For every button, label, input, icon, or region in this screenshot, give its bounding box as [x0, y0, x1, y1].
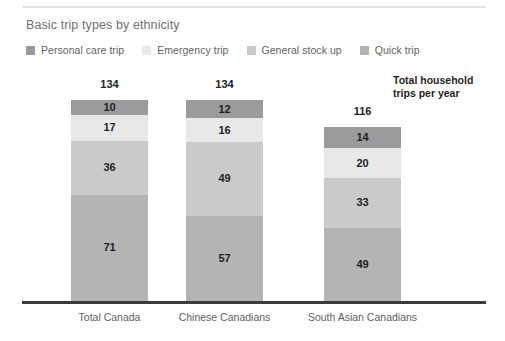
stacked-bar[interactable]: 10173671 [71, 100, 148, 301]
annotation-line-2: trips per year [393, 87, 497, 100]
stacked-bar[interactable]: 12164957 [186, 100, 263, 301]
bar-segment[interactable]: 49 [186, 142, 263, 216]
x-axis-line [22, 301, 486, 304]
bar-segment[interactable]: 12 [186, 100, 263, 118]
bar-segment-value: 57 [218, 253, 230, 264]
bar-segment-value: 71 [103, 242, 115, 253]
bar-segment[interactable]: 14 [324, 127, 401, 148]
bar-segment[interactable]: 57 [186, 216, 263, 302]
bar-segment[interactable]: 33 [324, 178, 401, 228]
bar-segment[interactable]: 71 [71, 195, 148, 302]
plot-area: 134101736711341216495711614203349 Total … [0, 0, 505, 341]
bar-segment[interactable]: 36 [71, 141, 148, 195]
category-label: South Asian Canadians [283, 311, 443, 323]
bar-segment[interactable]: 20 [324, 148, 401, 178]
bar-segment-value: 12 [218, 104, 230, 115]
total-household-annotation: Total household trips per year [393, 74, 497, 100]
bar-total-label: 134 [186, 78, 263, 90]
bar-segment-value: 33 [356, 197, 368, 208]
bar-segment-value: 14 [356, 132, 368, 143]
bar-segment-value: 17 [103, 122, 115, 133]
bar-segment-value: 49 [356, 259, 368, 270]
bar-segment-value: 20 [356, 158, 368, 169]
bar-segment-value: 10 [103, 102, 115, 113]
bar-segment[interactable]: 49 [324, 228, 401, 302]
bar-segment-value: 49 [218, 173, 230, 184]
annotation-line-1: Total household [393, 74, 497, 87]
bar-segment[interactable]: 16 [186, 118, 263, 142]
bar-total-label: 116 [324, 105, 401, 117]
bar-total-label: 134 [71, 78, 148, 90]
bar-segment-value: 16 [218, 125, 230, 136]
bar-segment-value: 36 [103, 162, 115, 173]
stacked-bar[interactable]: 14203349 [324, 127, 401, 301]
category-label: Chinese Canadians [145, 311, 305, 323]
chart-container: Basic trip types by ethnicity Personal c… [0, 0, 505, 341]
bar-segment[interactable]: 10 [71, 100, 148, 115]
bar-segment[interactable]: 17 [71, 115, 148, 141]
